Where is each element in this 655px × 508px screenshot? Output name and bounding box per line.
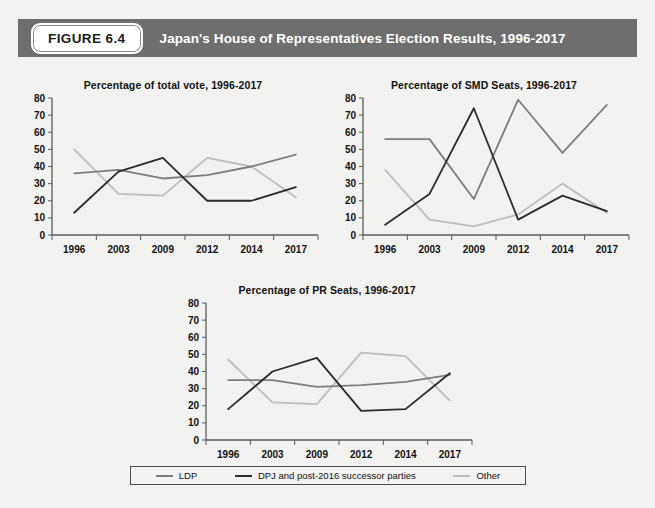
svg-text:1996: 1996 bbox=[374, 244, 397, 255]
svg-text:50: 50 bbox=[34, 144, 46, 155]
chart-plot-pr-seats: 0102030405060708019962003200920122014201… bbox=[176, 297, 478, 469]
chart-svg-pr-seats: 0102030405060708019962003200920122014201… bbox=[176, 297, 478, 469]
svg-text:2012: 2012 bbox=[350, 449, 373, 460]
svg-text:0: 0 bbox=[350, 230, 356, 241]
svg-text:50: 50 bbox=[188, 349, 200, 360]
svg-text:30: 30 bbox=[345, 178, 357, 189]
legend-label-dpj: DPJ and post-2016 successor parties bbox=[258, 470, 416, 481]
chart-title-total-vote: Percentage of total vote, 1996-2017 bbox=[22, 78, 324, 92]
chart-plot-total-vote: 0102030405060708019962003200920122014201… bbox=[22, 92, 324, 264]
svg-text:70: 70 bbox=[188, 315, 200, 326]
svg-text:70: 70 bbox=[345, 110, 357, 121]
chart-panel-pr-seats: Percentage of PR Seats, 1996-2017 010203… bbox=[176, 283, 478, 471]
svg-text:30: 30 bbox=[188, 383, 200, 394]
svg-text:2003: 2003 bbox=[418, 244, 441, 255]
series-line-dpj-and-post-2016-successor-parties bbox=[228, 358, 450, 411]
svg-text:80: 80 bbox=[345, 93, 357, 104]
svg-text:0: 0 bbox=[193, 435, 199, 446]
svg-text:20: 20 bbox=[345, 195, 357, 206]
legend-item-dpj: DPJ and post-2016 successor parties bbox=[235, 470, 416, 481]
figure-number-badge: FIGURE 6.4 bbox=[31, 23, 143, 54]
chart-legend: LDP DPJ and post-2016 successor parties … bbox=[130, 466, 526, 485]
legend-swatch-dpj bbox=[235, 475, 252, 477]
figure-number-label: FIGURE 6.4 bbox=[48, 31, 126, 46]
svg-text:2014: 2014 bbox=[551, 244, 574, 255]
svg-text:10: 10 bbox=[34, 212, 46, 223]
chart-panel-total-vote: Percentage of total vote, 1996-2017 0102… bbox=[22, 78, 324, 266]
svg-text:70: 70 bbox=[34, 110, 46, 121]
svg-text:2014: 2014 bbox=[240, 244, 263, 255]
legend-item-other: Other bbox=[453, 470, 500, 481]
svg-text:2017: 2017 bbox=[285, 244, 308, 255]
svg-text:2009: 2009 bbox=[306, 449, 329, 460]
chart-svg-smd-seats: 0102030405060708019962003200920122014201… bbox=[333, 92, 635, 264]
svg-text:20: 20 bbox=[188, 400, 200, 411]
svg-text:0: 0 bbox=[39, 230, 45, 241]
series-line-dpj-and-post-2016-successor-parties bbox=[74, 158, 296, 213]
chart-title-pr-seats: Percentage of PR Seats, 1996-2017 bbox=[176, 283, 478, 297]
svg-text:2009: 2009 bbox=[152, 244, 175, 255]
svg-text:2017: 2017 bbox=[596, 244, 619, 255]
svg-text:40: 40 bbox=[188, 366, 200, 377]
svg-text:40: 40 bbox=[345, 161, 357, 172]
svg-text:2003: 2003 bbox=[107, 244, 130, 255]
svg-text:2012: 2012 bbox=[196, 244, 219, 255]
svg-text:10: 10 bbox=[188, 417, 200, 428]
chart-svg-total-vote: 0102030405060708019962003200920122014201… bbox=[22, 92, 324, 264]
svg-text:80: 80 bbox=[34, 93, 46, 104]
chart-title-smd-seats: Percentage of SMD Seats, 1996-2017 bbox=[333, 78, 635, 92]
legend-label-other: Other bbox=[476, 470, 500, 481]
svg-text:2012: 2012 bbox=[507, 244, 530, 255]
svg-text:20: 20 bbox=[34, 195, 46, 206]
figure-header-bar: FIGURE 6.4 Japan's House of Representati… bbox=[18, 19, 637, 57]
svg-text:50: 50 bbox=[345, 144, 357, 155]
svg-text:30: 30 bbox=[34, 178, 46, 189]
chart-panel-smd-seats: Percentage of SMD Seats, 1996-2017 01020… bbox=[333, 78, 635, 266]
legend-label-ldp: LDP bbox=[179, 470, 197, 481]
figure-container: FIGURE 6.4 Japan's House of Representati… bbox=[0, 0, 655, 508]
svg-text:2014: 2014 bbox=[394, 449, 417, 460]
svg-text:1996: 1996 bbox=[217, 449, 240, 460]
svg-text:10: 10 bbox=[345, 212, 357, 223]
legend-item-ldp: LDP bbox=[156, 470, 197, 481]
series-line-ldp bbox=[385, 100, 607, 199]
svg-text:2009: 2009 bbox=[463, 244, 486, 255]
svg-text:60: 60 bbox=[34, 127, 46, 138]
svg-text:60: 60 bbox=[188, 332, 200, 343]
legend-swatch-other bbox=[453, 475, 470, 477]
figure-title: Japan's House of Representatives Electio… bbox=[160, 31, 566, 46]
legend-swatch-ldp bbox=[156, 475, 173, 477]
series-line-other bbox=[228, 353, 450, 404]
svg-text:80: 80 bbox=[188, 298, 200, 309]
svg-text:2003: 2003 bbox=[261, 449, 284, 460]
svg-text:40: 40 bbox=[34, 161, 46, 172]
series-line-other bbox=[74, 149, 296, 197]
svg-text:2017: 2017 bbox=[439, 449, 462, 460]
svg-text:1996: 1996 bbox=[63, 244, 86, 255]
chart-plot-smd-seats: 0102030405060708019962003200920122014201… bbox=[333, 92, 635, 264]
series-line-other bbox=[385, 170, 607, 227]
svg-text:60: 60 bbox=[345, 127, 357, 138]
